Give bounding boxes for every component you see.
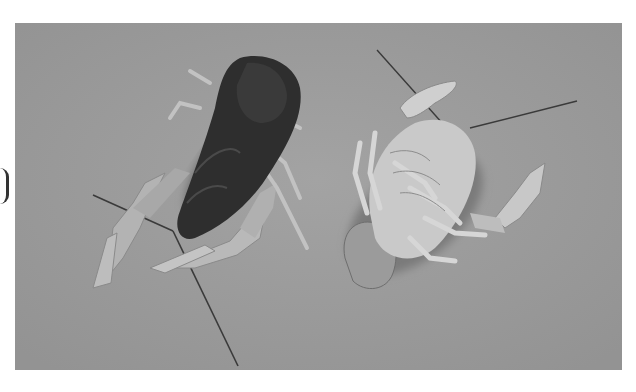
cropped-edge-mark <box>0 168 9 204</box>
crayfish-illustration <box>15 23 622 370</box>
crayfish-photo: Grayscale photograph of two crayfish on … <box>15 23 622 370</box>
